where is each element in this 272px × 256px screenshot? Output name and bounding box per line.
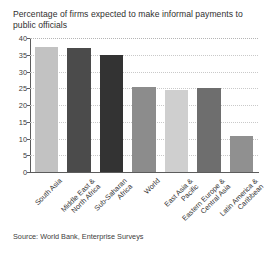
bar-slot <box>30 38 63 172</box>
y-tick-label: 25 <box>3 84 27 93</box>
bar[interactable] <box>230 136 253 172</box>
bar[interactable] <box>132 87 155 172</box>
y-axis-ticks: 0510152025303540 <box>0 38 27 172</box>
chart-title: Percentage of firms expected to make inf… <box>13 9 261 31</box>
plot-area <box>30 38 258 172</box>
source-note: Source: World Bank, Enterprise Surveys <box>13 232 143 241</box>
bar[interactable] <box>35 47 58 172</box>
y-tick-label: 15 <box>3 117 27 126</box>
y-tick-label: 40 <box>3 34 27 43</box>
y-tick-label: 35 <box>3 50 27 59</box>
bar-series <box>30 38 258 172</box>
bar-slot <box>128 38 161 172</box>
bar-slot <box>225 38 258 172</box>
bar-slot <box>160 38 193 172</box>
bar[interactable] <box>165 90 188 172</box>
y-tick-label: 30 <box>3 67 27 76</box>
y-tick-label: 10 <box>3 134 27 143</box>
bar-slot <box>95 38 128 172</box>
bar[interactable] <box>67 48 90 172</box>
chart-figure: Percentage of firms expected to make inf… <box>0 0 272 256</box>
bar-slot <box>63 38 96 172</box>
bar[interactable] <box>197 88 220 172</box>
x-axis-labels: South AsiaMiddle East & North AfricaSub-… <box>30 173 258 231</box>
y-tick-label: 0 <box>3 168 27 177</box>
y-tick-label: 20 <box>3 101 27 110</box>
bar[interactable] <box>100 55 123 172</box>
y-tick-label: 5 <box>3 151 27 160</box>
bar-slot <box>193 38 226 172</box>
